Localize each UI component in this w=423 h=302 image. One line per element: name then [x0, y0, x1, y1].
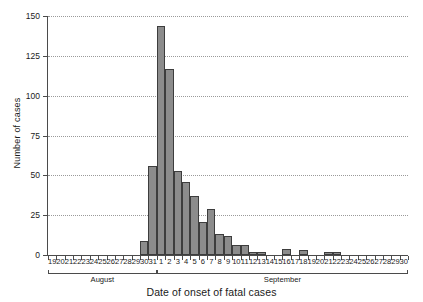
bar [140, 241, 148, 255]
bar [282, 249, 290, 255]
y-tick-mark [43, 175, 47, 176]
bar [174, 171, 182, 255]
bar [224, 236, 232, 255]
bar [257, 252, 265, 255]
y-tick-mark [43, 215, 47, 216]
bar [207, 209, 215, 255]
y-tick-mark [43, 56, 47, 57]
bar [157, 26, 165, 255]
bar [199, 222, 207, 255]
bar [249, 252, 257, 255]
y-tick-label: 25 [31, 211, 40, 220]
x-tick-label: 30 [395, 258, 413, 266]
y-tick-label: 0 [35, 251, 40, 260]
month-label: September [157, 275, 408, 284]
y-tick-mark [43, 255, 47, 256]
bar [165, 69, 173, 255]
bar [299, 250, 307, 255]
plot-area: 0255075100125150 [47, 16, 408, 256]
bar [190, 196, 198, 255]
bar [324, 252, 332, 255]
bar [182, 182, 190, 255]
x-axis-title: Date of onset of fatal cases [0, 286, 423, 298]
bar [215, 234, 223, 255]
bar [241, 245, 249, 255]
bar-series [48, 16, 408, 255]
bar [232, 245, 240, 255]
bar [333, 252, 341, 255]
month-bracket [48, 270, 157, 274]
month-bracket [157, 270, 408, 274]
y-tick-label: 100 [26, 91, 40, 100]
y-tick-label: 125 [26, 52, 40, 61]
y-tick-label: 150 [26, 12, 40, 21]
y-tick-label: 75 [31, 131, 40, 140]
month-label: August [48, 275, 157, 284]
bar [148, 166, 156, 255]
y-axis-title: Number of cases [12, 73, 22, 193]
y-tick-label: 50 [31, 171, 40, 180]
y-tick-mark [43, 16, 47, 17]
y-tick-mark [43, 136, 47, 137]
y-tick-mark [43, 96, 47, 97]
fatal-cases-epidemic-curve-chart: Number of cases 0255075100125150 1920212… [0, 0, 423, 302]
